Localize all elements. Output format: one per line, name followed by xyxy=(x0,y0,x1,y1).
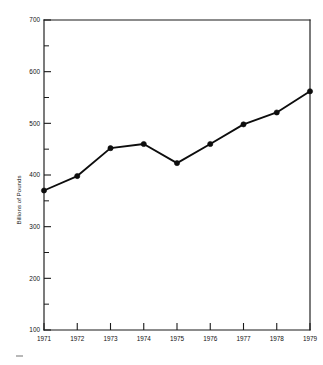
x-tick-label: 1975 xyxy=(170,335,185,342)
data-point xyxy=(208,141,213,146)
x-tick-label: 1973 xyxy=(103,335,118,342)
x-tick-label: 1979 xyxy=(303,335,318,342)
y-axis-title: Billions of Pounds xyxy=(15,175,22,224)
y-tick-label: 700 xyxy=(29,16,40,23)
y-axis-labels: 700 600 500 400 300 200 100 xyxy=(29,16,40,333)
data-point xyxy=(41,188,46,193)
data-point xyxy=(241,122,246,127)
data-point xyxy=(141,141,146,146)
line-chart: 700 600 500 400 300 200 100 Billions of … xyxy=(0,0,323,365)
y-tick-label: 500 xyxy=(29,120,40,127)
data-point xyxy=(75,173,80,178)
x-tick-label: 1972 xyxy=(70,335,85,342)
x-axis-labels: 1971 1972 1973 1974 1975 1976 1977 1978 … xyxy=(37,335,318,342)
data-point xyxy=(274,110,279,115)
x-tick-label: 1978 xyxy=(270,335,285,342)
data-point xyxy=(307,89,312,94)
y-tick-label: 400 xyxy=(29,171,40,178)
y-tick-label: 600 xyxy=(29,68,40,75)
plot-background xyxy=(44,20,310,330)
y-tick-label: 200 xyxy=(29,275,40,282)
data-point xyxy=(174,161,179,166)
x-tick-label: 1976 xyxy=(203,335,218,342)
x-tick-label: 1977 xyxy=(236,335,251,342)
chart-figure: 700 600 500 400 300 200 100 Billions of … xyxy=(0,0,323,365)
y-tick-label: 300 xyxy=(29,223,40,230)
y-tick-label: 100 xyxy=(29,326,40,333)
x-tick-label: 1971 xyxy=(37,335,52,342)
data-point xyxy=(108,146,113,151)
x-tick-label: 1974 xyxy=(137,335,152,342)
